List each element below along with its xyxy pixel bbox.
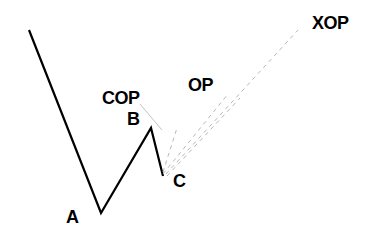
price-wave-line: [29, 30, 163, 213]
wave-diagram: [0, 0, 371, 238]
label-b: B: [127, 109, 140, 129]
op-secondary-dashed-line: [167, 98, 240, 176]
label-xop: XOP: [312, 13, 349, 33]
label-c: C: [173, 171, 186, 191]
label-op: OP: [188, 75, 213, 95]
op-dashed-line: [163, 94, 228, 174]
xop-dashed-line: [166, 30, 298, 174]
label-a: A: [66, 207, 79, 227]
label-cop: COP: [102, 88, 140, 108]
